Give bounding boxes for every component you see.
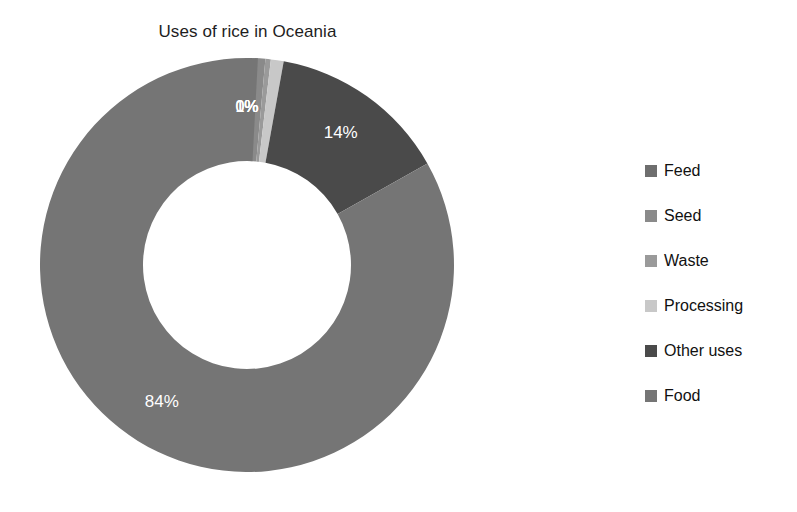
legend-item-label: Waste [664,253,709,269]
legend-swatch-icon [645,255,657,267]
legend-swatch-icon [645,210,657,222]
chart-title: Uses of rice in Oceania [0,22,495,42]
legend-swatch-icon [645,165,657,177]
legend-item-label: Other uses [664,343,742,359]
legend-item[interactable]: Other uses [645,328,795,373]
legend-swatch-icon [645,300,657,312]
legend-item-label: Processing [664,298,743,314]
donut-slices [40,58,454,472]
legend-item-label: Seed [664,208,701,224]
legend-swatch-icon [645,345,657,357]
legend-item[interactable]: Processing [645,283,795,328]
slice-percent-label: 84% [145,392,179,411]
donut-chart: 0%1%0%1%14%84% [32,50,462,480]
chart-canvas: Uses of rice in Oceania 0%1%0%1%14%84% F… [0,0,797,512]
legend-item[interactable]: Food [645,373,795,418]
legend-item[interactable]: Waste [645,238,795,283]
legend-item[interactable]: Seed [645,193,795,238]
slice-percent-label: 1% [235,98,258,115]
chart-legend: FeedSeedWasteProcessingOther usesFood [645,148,795,418]
legend-item-label: Food [664,388,700,404]
slice-percent-label: 14% [324,123,358,142]
donut-svg: 0%1%0%1%14%84% [32,50,462,480]
legend-swatch-icon [645,390,657,402]
legend-item-label: Feed [664,163,700,179]
legend-item[interactable]: Feed [645,148,795,193]
